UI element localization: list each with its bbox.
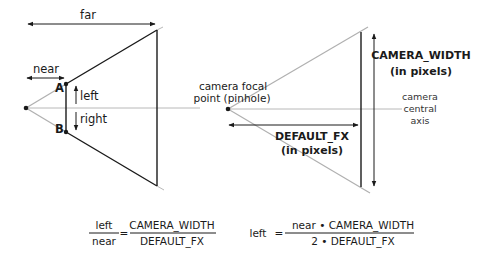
eq2-equals: = (275, 227, 284, 239)
equation-2: left = near • CAMERA_WIDTH 2 • DEFAULT_F… (249, 219, 414, 248)
default-fx-unit: (in pixels) (281, 144, 343, 157)
eq1-lhs-numerator: left (95, 219, 112, 231)
right-pinhole-point (226, 107, 231, 112)
point-a-label: A (55, 81, 64, 95)
left-frustum: far near A B left right (24, 8, 200, 190)
frustum-top-edge (66, 30, 157, 84)
frustum-bottom-edge (66, 132, 157, 186)
point-a (64, 82, 68, 86)
eq1-lhs-denominator: near (92, 235, 117, 247)
central-axis-label-1: camera (402, 91, 438, 102)
eq2-lhs: left (249, 227, 266, 239)
right-camera-model: CAMERA_WIDTH (in pixels) camera central … (193, 27, 470, 193)
equation-1: left near = CAMERA_WIDTH DEFAULT_FX (89, 219, 216, 248)
eq1-rhs-numerator: CAMERA_WIDTH (129, 219, 214, 232)
central-axis-label-3: axis (410, 115, 429, 126)
default-fx-label: DEFAULT_FX (275, 130, 350, 143)
left-label: left (80, 89, 99, 103)
point-b (64, 130, 68, 134)
far-label: far (80, 8, 96, 22)
ray-ext-bottom (157, 186, 164, 190)
focal-point-label-1: camera focal (199, 80, 267, 92)
left-pinhole-point (24, 106, 29, 111)
near-label: near (33, 62, 59, 76)
right-label: right (80, 112, 108, 126)
point-b-label: B (55, 122, 64, 136)
eq2-rhs-numerator: near • CAMERA_WIDTH (292, 219, 414, 232)
central-axis-label-2: central (403, 103, 436, 114)
ray-ext-top (157, 27, 163, 30)
focal-point-label-2: point (pinhole) (193, 92, 270, 104)
eq2-rhs-denominator: 2 • DEFAULT_FX (311, 235, 395, 248)
eq1-rhs-denominator: DEFAULT_FX (140, 235, 204, 248)
eq1-equals: = (120, 227, 129, 239)
camera-width-label: CAMERA_WIDTH (371, 49, 471, 62)
frustum-diagram: far near A B left right CAMERA_WIDTH (in… (0, 0, 493, 267)
camera-width-unit: (in pixels) (390, 65, 452, 78)
